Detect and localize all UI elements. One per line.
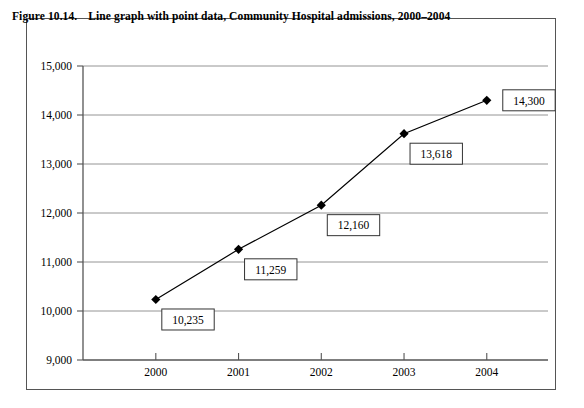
- figure-number: Figure 10.14.: [12, 10, 77, 22]
- figure-border: [26, 18, 556, 390]
- figure-caption-text: Line graph with point data, Community Ho…: [88, 10, 450, 22]
- figure-caption: Figure 10.14.Line graph with point data,…: [12, 10, 450, 22]
- figure-container: Figure 10.14.Line graph with point data,…: [0, 0, 584, 408]
